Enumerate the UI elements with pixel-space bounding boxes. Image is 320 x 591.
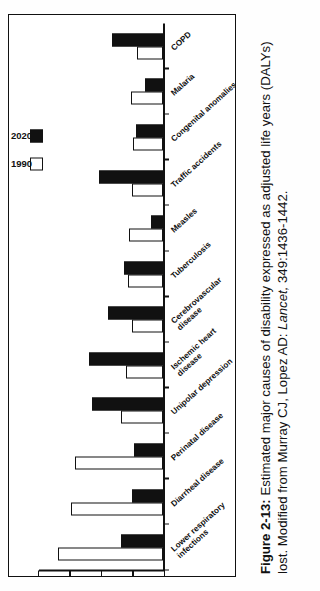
axis-tick-10: 10 [38, 570, 39, 577]
axis-tick-label: 10 [26, 574, 38, 577]
axis-tick-7.5: 7.5 [69, 570, 70, 577]
axis-tick-label: 5 [95, 574, 101, 577]
category-tick [163, 432, 169, 433]
chart-rotation-wrapper: 19902020 02.557.510 Lower respiratoryinf… [9, 15, 236, 577]
bar-group: Lower respiratoryinfections [15, 524, 163, 570]
bar-2020 [132, 489, 164, 502]
bar-2020 [151, 215, 164, 228]
category-label: Perinatal disease [170, 411, 225, 462]
caption-citation-rest: 349:1436-1442. [275, 190, 290, 286]
category-tick [163, 523, 169, 524]
category-label: Diarrheal disease [170, 456, 226, 508]
category-tick [163, 113, 169, 114]
bar-1990 [71, 502, 163, 515]
bar-group: Unipolar depression [15, 388, 163, 434]
bar-1990 [121, 410, 164, 423]
bar-1990 [131, 91, 164, 104]
category-label: COPD [170, 30, 193, 52]
bar-group: Tuberculosis [15, 251, 163, 297]
category-label: Malaria [170, 73, 197, 98]
bar-2020 [92, 397, 164, 410]
figure-caption: Figure 2-13: Estimated major causes of d… [257, 18, 292, 574]
bar-group: Congenital anomalies [15, 114, 163, 160]
axis-tick-label: 7.5 [55, 574, 70, 577]
category-label: Traffic accidents [170, 139, 224, 189]
bar-group: Perinatal disease [15, 433, 163, 479]
bar-1990 [75, 456, 163, 469]
bar-2020 [145, 78, 164, 91]
bar-groups: Lower respiratoryinfectionsDiarrheal dis… [15, 23, 163, 570]
bar-2020 [89, 352, 163, 365]
bar-2020 [136, 124, 164, 137]
bar-group: Ischemic heartdisease [15, 342, 163, 388]
category-label-line: Perinatal disease [170, 411, 225, 462]
bar-group: Traffic accidents [15, 160, 163, 206]
bar-1990 [132, 319, 164, 332]
category-label-line: COPD [170, 30, 193, 52]
bar-1990 [126, 365, 164, 378]
category-tick [163, 477, 169, 478]
category-label-line: Traffic accidents [170, 139, 224, 189]
category-tick [163, 158, 169, 159]
bar-group: Measles [15, 205, 163, 251]
figure-page: 19902020 02.557.510 Lower respiratoryinf… [0, 0, 320, 591]
category-tick [163, 341, 169, 342]
axis-tick-2.5: 2.5 [132, 570, 133, 577]
bar-1990 [128, 274, 163, 287]
category-label-line: Malaria [170, 73, 197, 98]
figure-caption-wrapper: Figure 2-13: Estimated major causes of d… [236, 14, 312, 577]
bar-2020 [99, 170, 163, 183]
axis-tick-label: 0 [158, 574, 164, 577]
axis-tick-label: 2.5 [118, 574, 133, 577]
category-label-line: Measles [170, 207, 199, 235]
category-tick [163, 569, 169, 570]
bar-2020 [108, 306, 163, 319]
bar-2020 [112, 33, 164, 46]
category-label: Lower respiratoryinfections [170, 501, 233, 560]
bar-1990 [132, 183, 164, 196]
bar-2020 [121, 534, 164, 547]
category-label: Cerebrovasculardisease [170, 276, 230, 332]
category-label: Tuberculosis [170, 240, 213, 280]
category-tick [163, 204, 169, 205]
bar-1990 [133, 137, 163, 150]
chart-canvas: 19902020 02.557.510 Lower respiratoryinf… [9, 15, 236, 577]
figure-frame: 19902020 02.557.510 Lower respiratoryinf… [8, 14, 236, 577]
category-label-line: Lower respiratory [170, 501, 227, 554]
category-tick [163, 386, 169, 387]
bar-2020 [124, 261, 163, 274]
plot-area: 02.557.510 Lower respiratoryinfectionsDi… [15, 23, 165, 570]
category-tick [163, 295, 169, 296]
bar-group: Cerebrovasculardisease [15, 297, 163, 343]
category-label: Measles [170, 207, 199, 235]
category-tick [163, 250, 169, 251]
bar-group: Diarrheal disease [15, 479, 163, 525]
bar-group: Malaria [15, 69, 163, 115]
bar-1990 [58, 547, 164, 560]
bar-2020 [134, 443, 163, 456]
category-label-line: Diarrheal disease [170, 456, 226, 508]
axis-tick-5: 5 [101, 570, 102, 577]
category-label-line: Tuberculosis [170, 240, 213, 280]
caption-figure-label: Figure 2-13: [258, 499, 273, 574]
bar-group: COPD [15, 23, 163, 69]
axis-tick-0: 0 [164, 570, 165, 577]
bar-1990 [137, 46, 163, 59]
bar-1990 [129, 228, 163, 241]
category-tick [163, 67, 169, 68]
caption-journal-name: Lancet, [275, 286, 290, 329]
